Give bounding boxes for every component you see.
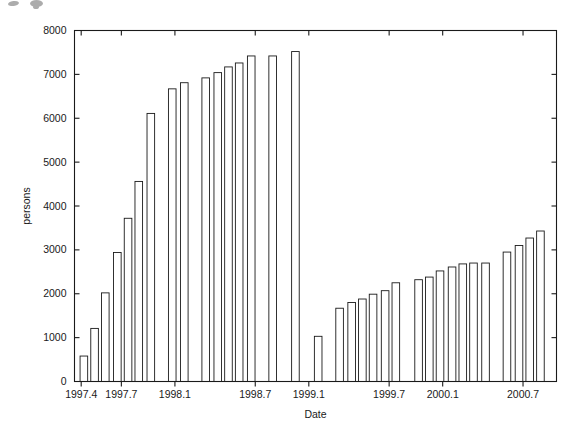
bar <box>114 253 122 382</box>
x-tick-label: 1997.4 <box>65 388 97 400</box>
bars-group <box>80 52 544 382</box>
bar <box>336 308 344 381</box>
bar <box>214 73 222 382</box>
bar <box>369 294 377 381</box>
x-tick-label: 1999.7 <box>373 388 405 400</box>
bar <box>470 263 478 381</box>
bar <box>91 328 99 381</box>
bar <box>124 218 132 381</box>
bar <box>147 113 155 381</box>
x-tick-label: 1998.1 <box>159 388 191 400</box>
y-tick-label: 5000 <box>43 156 67 168</box>
y-tick-label: 8000 <box>43 24 67 36</box>
bar <box>459 264 467 382</box>
y-axis-title: persons <box>20 187 32 224</box>
bar <box>80 356 88 381</box>
y-tick-label: 3000 <box>43 243 67 255</box>
bar <box>526 238 534 381</box>
x-axis-tick-labels: 1997.41997.71998.11998.71999.11999.72000… <box>65 388 539 400</box>
x-axis-title: Date <box>304 408 326 420</box>
bar <box>348 303 356 382</box>
bar <box>359 299 367 381</box>
x-tick-label: 2000.7 <box>507 388 539 400</box>
y-tick-label: 0 <box>61 375 67 387</box>
y-axis-tick-labels: 010002000300040005000600070008000 <box>43 24 67 387</box>
bar <box>235 63 243 382</box>
bar <box>180 83 188 382</box>
bar <box>381 291 389 382</box>
bar <box>101 293 109 382</box>
bar-chart-figure: 010002000300040005000600070008000 1997.4… <box>0 0 576 434</box>
bar <box>314 336 322 381</box>
bar <box>168 89 176 382</box>
bar <box>202 78 210 382</box>
x-tick-label: 1998.7 <box>239 388 271 400</box>
bar <box>225 67 233 382</box>
y-tick-label: 2000 <box>43 287 67 299</box>
x-tick-label: 2000.1 <box>427 388 459 400</box>
bar <box>515 245 523 381</box>
bar <box>503 252 511 381</box>
y-tick-label: 7000 <box>43 68 67 80</box>
bar <box>415 280 423 382</box>
bar <box>292 52 300 382</box>
y-tick-label: 4000 <box>43 200 67 212</box>
x-tick-label: 1999.1 <box>293 388 325 400</box>
bar <box>482 263 490 381</box>
bar <box>392 283 400 382</box>
bar <box>426 277 434 381</box>
y-tick-label: 1000 <box>43 331 67 343</box>
bar <box>448 267 456 382</box>
bar <box>436 271 444 382</box>
bar <box>537 231 545 381</box>
chart-canvas: 010002000300040005000600070008000 1997.4… <box>0 0 576 434</box>
bar <box>135 181 143 381</box>
y-tick-label: 6000 <box>43 112 67 124</box>
bar <box>269 56 277 382</box>
bar <box>247 56 255 382</box>
x-tick-label: 1997.7 <box>105 388 137 400</box>
